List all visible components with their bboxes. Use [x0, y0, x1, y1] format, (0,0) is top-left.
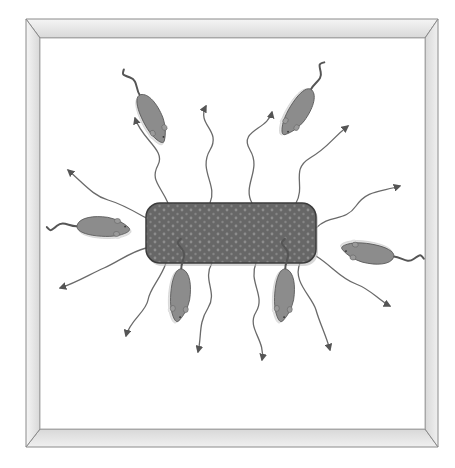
mice-food-diagram [0, 0, 455, 468]
diagram-canvas [0, 0, 455, 468]
food-block [146, 203, 318, 266]
